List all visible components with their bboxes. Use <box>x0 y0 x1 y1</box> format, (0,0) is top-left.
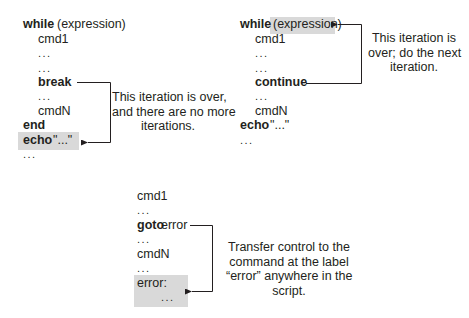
continue-arrow <box>306 25 362 84</box>
goto-arrow <box>190 226 213 292</box>
connector-layer <box>0 0 469 318</box>
break-arrow <box>77 83 111 143</box>
